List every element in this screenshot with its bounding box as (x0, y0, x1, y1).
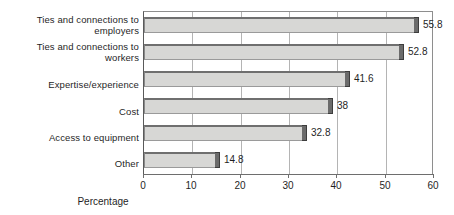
bar-value-4: 32.8 (311, 126, 330, 140)
gridline-50 (386, 12, 387, 174)
bar-value-5: 14.8 (224, 153, 243, 167)
x-tick-label-0: 0 (128, 180, 158, 192)
x-tick-label-20: 20 (225, 180, 255, 192)
x-tick-label-50: 50 (370, 180, 400, 192)
x-tick-label-10: 10 (176, 180, 206, 192)
bar-cap-2 (345, 71, 350, 87)
bar-value-2: 41.6 (354, 72, 373, 86)
x-tick-0 (143, 174, 144, 178)
bar-chart: Ties and connections to employers Ties a… (0, 0, 454, 215)
bar-1 (144, 44, 399, 60)
bar-3 (144, 98, 328, 114)
gridline-30 (289, 12, 290, 174)
category-label-2: Expertise/experience (0, 79, 139, 90)
x-tick-40 (336, 174, 337, 178)
gridline-10 (192, 12, 193, 174)
category-label-1: Ties and connections to workers (0, 41, 139, 63)
bar-cap-5 (215, 152, 220, 168)
x-axis-title: Percentage (77, 196, 128, 208)
bar-2 (144, 71, 345, 87)
x-tick-50 (385, 174, 386, 178)
x-tick-20 (240, 174, 241, 178)
bar-4 (144, 125, 302, 141)
plot-area: 55.8 52.8 41.6 38 32.8 (143, 11, 433, 174)
x-tick-60 (433, 174, 434, 178)
x-tick-10 (191, 174, 192, 178)
bar-value-3: 38 (337, 99, 348, 113)
gridline-20 (241, 12, 242, 174)
x-axis-title-container: Percentage (0, 196, 454, 208)
bar-cap-4 (302, 125, 307, 141)
x-tick-30 (288, 174, 289, 178)
bar-cap-3 (328, 98, 333, 114)
bar-0 (144, 17, 414, 33)
category-label-3: Cost (0, 106, 139, 117)
bar-value-0: 55.8 (423, 18, 442, 32)
category-label-4: Access to equipment (0, 132, 139, 143)
gridline-40 (337, 12, 338, 174)
bar-value-1: 52.8 (408, 45, 427, 59)
bar-5 (144, 152, 215, 168)
category-label-5: Other (0, 158, 139, 169)
bar-cap-1 (399, 44, 404, 60)
category-axis-labels: Ties and connections to employers Ties a… (0, 0, 139, 215)
category-label-0: Ties and connections to employers (0, 14, 139, 36)
x-tick-label-60: 60 (418, 180, 448, 192)
bar-cap-0 (414, 17, 419, 33)
x-tick-label-40: 40 (321, 180, 351, 192)
x-tick-label-30: 30 (273, 180, 303, 192)
